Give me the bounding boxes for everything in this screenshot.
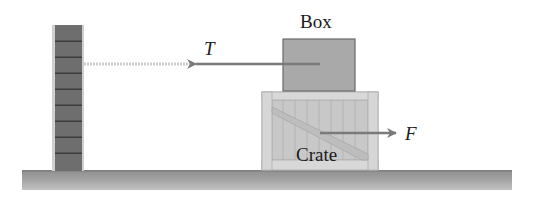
diagram-canvas xyxy=(0,0,537,205)
wall xyxy=(52,25,84,171)
applied-force-label: F xyxy=(405,124,417,143)
crate-label: Crate xyxy=(296,145,337,164)
box-label: Box xyxy=(300,12,332,31)
tension-label: T xyxy=(204,39,215,58)
ground xyxy=(22,170,512,190)
